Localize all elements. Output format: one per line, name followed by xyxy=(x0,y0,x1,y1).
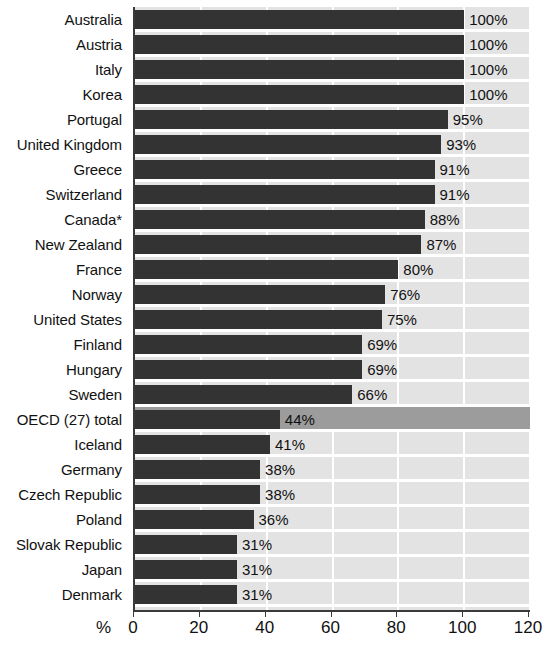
bar-value-label: 36% xyxy=(259,510,289,529)
bar-value-label: 91% xyxy=(440,160,470,179)
category-label-finland: Finland xyxy=(0,332,128,357)
category-label-denmark: Denmark xyxy=(0,582,128,607)
category-label-portugal: Portugal xyxy=(0,107,128,132)
bar-value-label: 38% xyxy=(265,460,295,479)
bar xyxy=(135,285,385,304)
bar-value-label: 88% xyxy=(430,210,460,229)
bar-value-label: 95% xyxy=(453,110,483,129)
bar xyxy=(135,110,448,129)
category-label-japan: Japan xyxy=(0,557,128,582)
bar-value-label: 87% xyxy=(426,235,456,254)
x-tick-60 xyxy=(331,610,332,617)
bar-value-label: 69% xyxy=(367,360,397,379)
category-label-korea: Korea xyxy=(0,82,128,107)
x-tick-label-80: 80 xyxy=(374,618,418,638)
category-label-slovak-republic: Slovak Republic xyxy=(0,532,128,557)
bar xyxy=(135,260,398,279)
bar-value-label: 44% xyxy=(285,410,315,429)
bar xyxy=(135,385,352,404)
bar xyxy=(135,10,464,29)
category-label-canada: Canada* xyxy=(0,207,128,232)
category-label-oecd-27-total: OECD (27) total xyxy=(0,407,128,432)
x-tick-40 xyxy=(265,610,266,617)
category-label-italy: Italy xyxy=(0,57,128,82)
x-tick-label-40: 40 xyxy=(243,618,287,638)
plot-area: 100%100%100%100%95%93%91%91%88%87%80%76%… xyxy=(133,7,530,610)
x-tick-label-20: 20 xyxy=(177,618,221,638)
category-label-australia: Australia xyxy=(0,7,128,32)
bar-chart: AustraliaAustriaItalyKoreaPortugalUnited… xyxy=(0,0,559,656)
bar xyxy=(135,185,435,204)
category-label-switzerland: Switzerland xyxy=(0,182,128,207)
category-label-new-zealand: New Zealand xyxy=(0,232,128,257)
bar xyxy=(135,60,464,79)
bar xyxy=(135,535,237,554)
bar-value-label: 100% xyxy=(469,60,507,79)
category-label-austria: Austria xyxy=(0,32,128,57)
bar xyxy=(135,485,260,504)
bar xyxy=(135,435,270,454)
x-axis-unit-label: % xyxy=(96,618,111,638)
bar xyxy=(135,410,280,429)
category-label-germany: Germany xyxy=(0,457,128,482)
x-tick-0 xyxy=(133,610,134,617)
bar xyxy=(135,510,254,529)
x-tick-label-60: 60 xyxy=(309,618,353,638)
category-label-sweden: Sweden xyxy=(0,382,128,407)
bar-value-label: 100% xyxy=(469,85,507,104)
bar-value-label: 91% xyxy=(440,185,470,204)
bar-value-label: 38% xyxy=(265,485,295,504)
bar xyxy=(135,235,421,254)
bar-value-label: 76% xyxy=(390,285,420,304)
bar xyxy=(135,335,362,354)
bar-value-label: 80% xyxy=(403,260,433,279)
row-separator xyxy=(135,604,530,607)
category-axis-labels: AustraliaAustriaItalyKoreaPortugalUnited… xyxy=(0,7,128,607)
x-tick-label-0: 0 xyxy=(111,618,155,638)
x-tick-20 xyxy=(199,610,200,617)
bar xyxy=(135,160,435,179)
bar xyxy=(135,310,382,329)
x-tick-80 xyxy=(396,610,397,617)
x-tick-label-100: 100 xyxy=(440,618,484,638)
bar-value-label: 93% xyxy=(446,135,476,154)
bar xyxy=(135,210,425,229)
category-label-united-states: United States xyxy=(0,307,128,332)
category-label-greece: Greece xyxy=(0,157,128,182)
x-tick-120 xyxy=(528,610,529,617)
bar xyxy=(135,35,464,54)
bar xyxy=(135,85,464,104)
bar xyxy=(135,460,260,479)
bar xyxy=(135,585,237,604)
bar-value-label: 69% xyxy=(367,335,397,354)
bar-value-label: 31% xyxy=(242,535,272,554)
category-label-united-kingdom: United Kingdom xyxy=(0,132,128,157)
bar-value-label: 75% xyxy=(387,310,417,329)
bar-value-label: 66% xyxy=(357,385,387,404)
bar xyxy=(135,360,362,379)
bar xyxy=(135,560,237,579)
category-label-iceland: Iceland xyxy=(0,432,128,457)
category-label-france: France xyxy=(0,257,128,282)
bar-value-label: 31% xyxy=(242,585,272,604)
bar-value-label: 100% xyxy=(469,35,507,54)
category-label-norway: Norway xyxy=(0,282,128,307)
bar xyxy=(135,135,441,154)
bar-value-label: 31% xyxy=(242,560,272,579)
x-tick-label-120: 120 xyxy=(506,618,550,638)
bar-value-label: 41% xyxy=(275,435,305,454)
x-axis-line xyxy=(133,610,530,612)
category-label-poland: Poland xyxy=(0,507,128,532)
category-label-hungary: Hungary xyxy=(0,357,128,382)
x-tick-100 xyxy=(462,610,463,617)
bar-value-label: 100% xyxy=(469,10,507,29)
category-label-czech-republic: Czech Republic xyxy=(0,482,128,507)
